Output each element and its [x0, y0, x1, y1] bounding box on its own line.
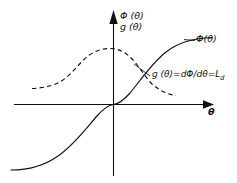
y-axis-label-g: g (θ)	[120, 22, 142, 32]
g-equation-prefix: g (θ)=dΦ	[152, 69, 193, 79]
phi-sigmoid-curve	[11, 38, 212, 171]
g-label-leader-line	[134, 64, 150, 76]
phi-curve-annotation: Φ(θ)	[196, 34, 217, 44]
g-equation-middle: dθ=L	[197, 69, 221, 79]
y-axis-label-phi: Φ (θ)	[120, 11, 144, 21]
figure-drawing	[0, 0, 237, 183]
x-axis-label-theta: θ	[208, 107, 215, 117]
figure-canvas: Φ (θ) g (θ) θ Φ(θ) g (θ)=dΦ/dθ=Ld	[0, 0, 237, 183]
g-equation-subscript: d	[220, 74, 224, 82]
arrow-up-icon	[109, 10, 117, 24]
g-equation-annotation: g (θ)=dΦ/dθ=Ld	[152, 70, 224, 82]
